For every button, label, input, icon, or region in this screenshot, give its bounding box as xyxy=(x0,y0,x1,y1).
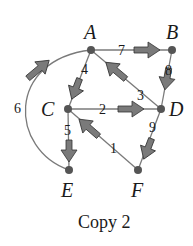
node-label-F: F xyxy=(130,179,144,201)
arrow-A-B-icon xyxy=(134,42,160,58)
edge-F-C xyxy=(68,109,138,170)
graph-diagram: A B C D E F 7 8 3 4 2 9 1 5 6 Copy 2 xyxy=(0,0,193,246)
figure-caption: Copy 2 xyxy=(78,212,131,232)
node-label-C: C xyxy=(41,98,55,120)
node-A xyxy=(87,46,95,54)
arrow-E-A-icon xyxy=(23,54,55,84)
arrow-A-C-icon xyxy=(64,76,87,102)
node-B xyxy=(168,46,176,54)
node-E xyxy=(65,166,73,174)
weight-D-A: 3 xyxy=(137,88,144,103)
arrow-D-F-icon xyxy=(136,136,159,162)
weight-C-E: 5 xyxy=(64,123,71,138)
weight-A-B: 7 xyxy=(118,43,125,58)
arrow-C-E-icon xyxy=(61,140,77,162)
node-label-A: A xyxy=(82,21,97,43)
node-label-E: E xyxy=(60,179,73,201)
weight-F-C: 1 xyxy=(110,141,117,156)
arrow-D-A-icon xyxy=(101,56,131,85)
node-D xyxy=(157,105,165,113)
weight-C-D: 2 xyxy=(99,102,106,117)
node-label-D: D xyxy=(168,98,184,120)
weight-A-C: 4 xyxy=(81,62,88,77)
weight-D-F: 9 xyxy=(149,120,156,135)
weight-E-A: 6 xyxy=(14,101,21,116)
node-C xyxy=(64,105,72,113)
arrow-C-D-icon xyxy=(118,101,144,117)
edge-D-A xyxy=(91,50,161,109)
node-label-B: B xyxy=(166,21,178,43)
weight-B-D: 8 xyxy=(165,63,172,78)
node-F xyxy=(134,166,142,174)
